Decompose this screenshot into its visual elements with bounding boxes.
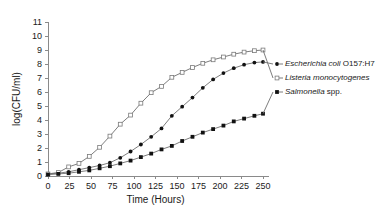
legend-marker-2: [275, 90, 279, 94]
data-series-layer: [46, 48, 265, 176]
y-tick-label: 9: [37, 45, 42, 55]
x-tick-label: 0: [45, 181, 50, 191]
y-axis: 01234567891011: [32, 17, 48, 181]
chart-legend: Escherichia coli O157:H7Listeria monocyt…: [263, 50, 375, 114]
data-point-marker: [160, 148, 164, 152]
data-point-marker: [253, 61, 257, 65]
y-tick-label: 7: [37, 73, 42, 83]
data-point-marker: [118, 122, 122, 126]
y-tick-label: 2: [37, 143, 42, 153]
series-line-1: [48, 50, 263, 174]
x-tick-label: 175: [191, 181, 206, 191]
y-axis-title: log(CFU/ml): [11, 72, 22, 126]
data-point-marker: [191, 135, 195, 139]
data-point-marker: [77, 170, 81, 174]
y-tick-label: 4: [37, 115, 42, 125]
x-tick-label: 250: [255, 181, 270, 191]
data-point-marker: [201, 61, 205, 65]
data-point-marker: [129, 113, 133, 117]
y-tick-label: 10: [32, 31, 42, 41]
y-tick-label: 5: [37, 101, 42, 111]
data-point-marker: [222, 124, 226, 128]
data-point-marker: [129, 159, 133, 163]
data-point-marker: [98, 166, 102, 170]
legend-marker-1: [275, 76, 279, 80]
x-axis-title: Time (Hours): [127, 194, 185, 205]
x-tick-label: 50: [86, 181, 96, 191]
data-point-marker: [261, 112, 265, 116]
x-tick-label: 100: [126, 181, 141, 191]
data-point-marker: [67, 165, 71, 169]
chart-canvas: 01234567891011 0255075100125150175200225…: [0, 0, 378, 219]
data-point-marker: [170, 75, 174, 79]
legend-marker-0: [275, 62, 279, 66]
data-point-marker: [253, 114, 257, 118]
data-point-marker: [108, 134, 112, 138]
data-point-marker: [232, 120, 236, 124]
data-point-marker: [139, 143, 143, 147]
data-point-marker: [160, 126, 164, 130]
data-point-marker: [149, 135, 153, 139]
data-point-marker: [253, 49, 257, 53]
data-point-marker: [149, 152, 153, 156]
data-point-marker: [211, 127, 215, 131]
data-point-marker: [170, 114, 174, 118]
series-line-0: [48, 62, 263, 174]
y-tick-label: 0: [37, 171, 42, 181]
data-point-marker: [191, 66, 195, 70]
data-point-marker: [46, 173, 50, 177]
data-point-marker: [149, 91, 153, 95]
data-point-marker: [242, 117, 246, 121]
y-tick-label: 11: [33, 17, 42, 27]
data-point-marker: [211, 78, 215, 82]
data-point-marker: [170, 144, 174, 148]
data-point-marker: [180, 105, 184, 109]
x-tick-label: 75: [107, 181, 117, 191]
data-point-marker: [87, 169, 91, 173]
data-point-marker: [180, 71, 184, 75]
data-point-marker: [201, 86, 205, 90]
growth-curve-chart: 01234567891011 0255075100125150175200225…: [0, 0, 378, 219]
data-point-marker: [222, 55, 226, 59]
data-point-marker: [232, 66, 236, 70]
legend-label-2: Salmonella spp.: [285, 87, 342, 96]
data-point-marker: [98, 145, 102, 149]
x-axis: 0255075100125150175200225250: [45, 176, 270, 191]
data-point-marker: [108, 161, 112, 165]
data-point-marker: [222, 71, 226, 75]
y-tick-label: 1: [37, 157, 42, 167]
data-point-marker: [129, 150, 133, 154]
data-point-marker: [139, 155, 143, 159]
data-point-marker: [242, 63, 246, 67]
data-point-marker: [160, 85, 164, 89]
x-tick-label: 200: [212, 181, 227, 191]
data-point-marker: [201, 131, 205, 135]
y-tick-label: 6: [37, 87, 42, 97]
y-tick-label: 3: [37, 129, 42, 139]
data-point-marker: [87, 155, 91, 159]
x-tick-label: 25: [64, 181, 74, 191]
data-point-marker: [108, 164, 112, 168]
data-point-marker: [118, 162, 122, 166]
data-point-marker: [56, 172, 60, 176]
data-point-marker: [139, 101, 143, 105]
data-point-marker: [118, 156, 122, 160]
data-point-marker: [211, 58, 215, 62]
x-tick-label: 125: [148, 181, 163, 191]
x-tick-label: 225: [234, 181, 249, 191]
data-point-marker: [232, 52, 236, 56]
data-point-marker: [67, 171, 71, 175]
data-point-marker: [180, 139, 184, 143]
y-tick-label: 8: [37, 59, 42, 69]
legend-label-1: Listeria monocytogenes: [285, 73, 370, 82]
legend-label-0: Escherichia coli O157:H7: [285, 59, 375, 68]
x-tick-label: 150: [169, 181, 184, 191]
legend-leader-line-2: [263, 92, 273, 114]
data-point-marker: [77, 162, 81, 166]
data-point-marker: [242, 50, 246, 54]
data-point-marker: [191, 96, 195, 100]
